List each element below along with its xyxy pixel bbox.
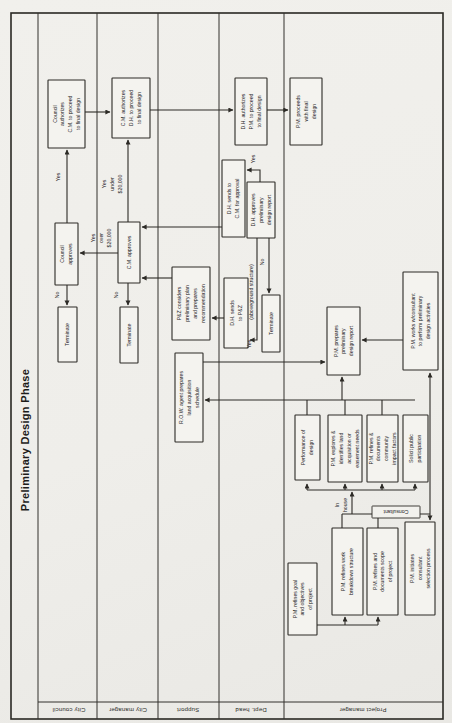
pm-prepares-report-box-text: P.M. preparespreliminarydesign report bbox=[333, 325, 355, 357]
label-aboveground: (aboveground structure) bbox=[248, 264, 254, 320]
pm-wbs-box-text: P.M. refines workbreakdown structure bbox=[340, 548, 354, 595]
cm-approves-box-text: C.M. approves bbox=[126, 235, 132, 269]
lane-label-dept-head: Dept. head bbox=[235, 707, 266, 713]
dh-authorizes-box-text: D.H. authorizesP.M. to proceedto final d… bbox=[240, 93, 262, 129]
terminate-cm-box-text: Terminate bbox=[126, 324, 132, 347]
dh-approves-box-text: D.H. approvespreliminarydesign report bbox=[250, 193, 272, 227]
solicit-public-box-text: Solicit publicparticipation bbox=[408, 434, 422, 463]
cm-authorizes-box-text: C.M. authorizesD.H. to proceedto final d… bbox=[120, 89, 142, 126]
label-no-dh: No bbox=[259, 259, 265, 266]
flowchart-canvas: CouncilauthorizesC.M. to proceedto final… bbox=[0, 0, 452, 723]
page-title: Preliminary Design Phase bbox=[19, 369, 31, 511]
label-yes-over-20000: Yesover$20,000 bbox=[90, 229, 112, 248]
label-yes-council: Yes bbox=[55, 172, 61, 181]
label-no-council: No bbox=[54, 292, 60, 299]
label-yes-dh: Yes bbox=[250, 154, 256, 163]
pm-explores-land-box-text: P.M. explores &identifies landacquisitio… bbox=[330, 429, 359, 468]
lane-label-project-manager: Project manager bbox=[339, 707, 386, 713]
pz-considers-box-text: P&Z considerspreliminary planand prepare… bbox=[176, 284, 205, 323]
lane-label-city-manager: City manager bbox=[109, 707, 147, 713]
edge-dh-approves-yes bbox=[247, 170, 260, 182]
terminate-dh-box-text: Terminate bbox=[268, 312, 274, 335]
terminate-council-box-text: Terminate bbox=[64, 323, 70, 346]
label-no-cm: No bbox=[113, 292, 119, 299]
label-yes-pz: Yes bbox=[246, 339, 252, 348]
lane-label-support: Support bbox=[177, 707, 199, 713]
label-in-house: Inhouse bbox=[334, 498, 348, 512]
label-yes-under-20000: Yesunder$20,000 bbox=[101, 175, 123, 194]
scanned-flowchart-page: CouncilauthorizesC.M. to proceedto final… bbox=[0, 0, 452, 723]
lane-label-city-council: City council bbox=[52, 707, 85, 713]
pm-community-impact-box-text: P.M. refines &documentscommunityimpact f… bbox=[368, 432, 397, 465]
dh-sends-to-cm-box-text: D.H. sends toC.M. for approval bbox=[226, 179, 240, 219]
consultant-tag-text: Consultant bbox=[383, 509, 408, 515]
council-approves-box-text: Councilapproves bbox=[59, 243, 73, 265]
